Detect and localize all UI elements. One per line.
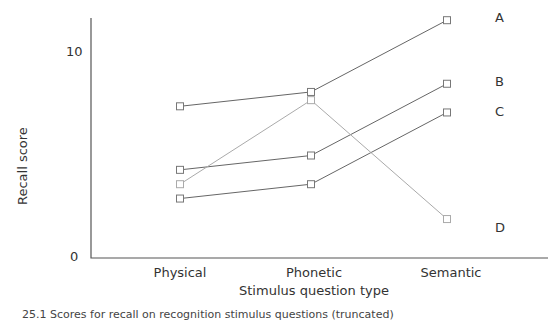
data-point-marker <box>444 17 451 24</box>
series-label-a: A <box>495 10 504 25</box>
data-point-marker <box>308 88 315 95</box>
axes <box>91 18 548 258</box>
data-point-marker <box>444 216 451 223</box>
series-label-b: B <box>495 74 504 89</box>
data-point-marker <box>177 103 184 110</box>
x-category-semantic: Semantic <box>421 265 482 280</box>
x-category-phonetic: Phonetic <box>286 265 342 280</box>
series-line-d <box>180 100 447 219</box>
y-tick-10: 10 <box>66 44 83 59</box>
series-label-d: D <box>495 220 505 235</box>
data-point-marker <box>308 97 315 104</box>
data-point-marker <box>177 195 184 202</box>
data-point-marker <box>308 152 315 159</box>
data-point-marker <box>177 166 184 173</box>
figure-caption: 25.1 Scores for recall on recognition st… <box>22 308 394 321</box>
data-point-marker <box>444 109 451 116</box>
x-category-physical: Physical <box>154 265 207 280</box>
series-label-c: C <box>495 104 504 119</box>
y-tick-0: 0 <box>70 249 78 264</box>
data-point-marker <box>308 181 315 188</box>
x-axis-label: Stimulus question type <box>239 283 389 298</box>
data-point-marker <box>177 181 184 188</box>
data-point-marker <box>444 80 451 87</box>
y-axis-label: Recall score <box>15 127 30 205</box>
